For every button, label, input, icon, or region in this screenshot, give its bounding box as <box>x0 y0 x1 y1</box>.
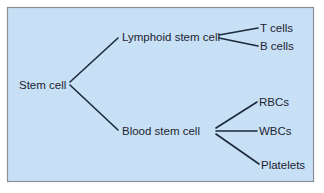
node-rbcs: RBCs <box>259 96 289 108</box>
node-blood-stem-cell: Blood stem cell <box>122 125 200 137</box>
stem-cell-diagram: Stem cell Lymphoid stem cell Blood stem … <box>0 0 324 193</box>
node-t-cells: T cells <box>260 22 293 34</box>
node-lymphoid-stem-cell: Lymphoid stem cell <box>122 31 220 43</box>
node-b-cells: B cells <box>260 40 294 52</box>
node-platelets: Platelets <box>261 159 305 171</box>
node-stem-cell: Stem cell <box>19 79 66 91</box>
node-wbcs: WBCs <box>259 125 292 137</box>
